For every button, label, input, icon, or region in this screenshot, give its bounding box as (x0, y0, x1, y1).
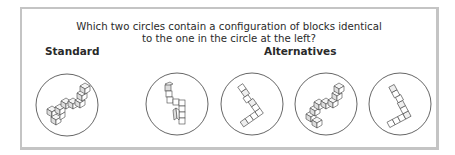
question-text: Which two circles contain a configuratio… (22, 21, 436, 45)
block-configuration-figure (294, 72, 358, 136)
block-configuration-figure (35, 73, 99, 137)
standard-label: Standard (45, 45, 99, 57)
alternatives-label: Alternatives (264, 45, 336, 57)
alternative-circle-2[interactable] (220, 72, 284, 136)
question-line-2: to the one in the circle at the left? (22, 33, 436, 45)
block-configuration-figure (368, 72, 432, 136)
question-frame: Which two circles contain a configuratio… (20, 7, 439, 150)
alternative-circle-3[interactable] (294, 72, 358, 136)
alternative-circle-1[interactable] (145, 72, 209, 136)
question-line-1: Which two circles contain a configuratio… (22, 21, 436, 33)
alternative-circle-4[interactable] (368, 72, 432, 136)
block-configuration-figure (220, 72, 284, 136)
block-configuration-figure (145, 72, 209, 136)
standard-circle (35, 73, 99, 137)
